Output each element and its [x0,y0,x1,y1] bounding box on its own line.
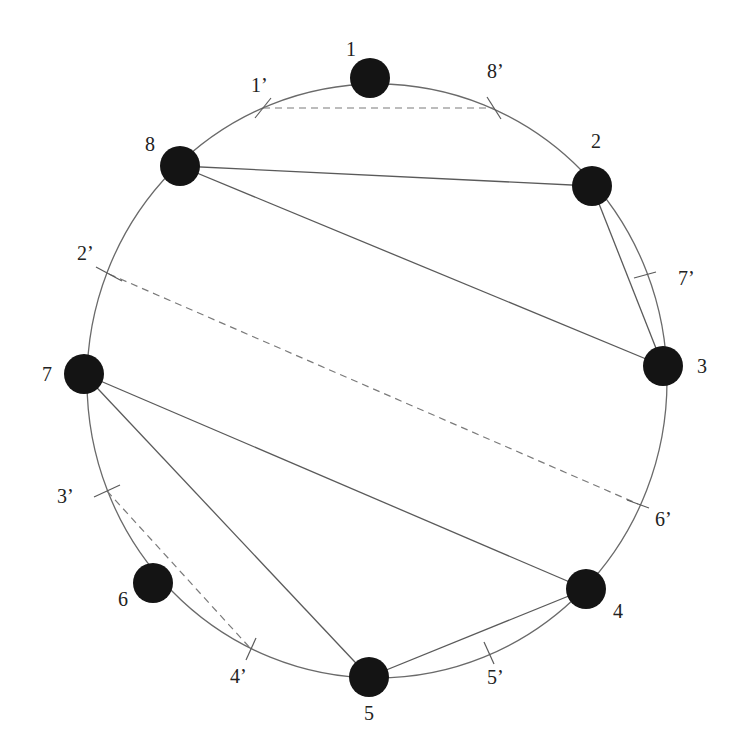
node-2 [572,166,612,206]
node-3 [643,346,683,386]
tick-8p [487,97,501,119]
cut-label-3p: 3’ [57,485,74,507]
node-label-2: 2 [591,130,601,152]
node-label-7: 7 [42,363,52,385]
nodes [64,58,683,697]
cut-label-2p: 2’ [77,242,94,264]
node-7 [64,354,104,394]
tick-7p [634,272,656,278]
node-4 [566,569,606,609]
dashed-chord-3p-4p [107,491,251,649]
circular-graph-diagram: 1’8’7’6’5’4’3’2’12345678 [0,0,745,756]
edge-7-4 [84,374,586,589]
cut-label-4p: 4’ [230,665,247,687]
edge-7-5 [84,374,369,677]
dashed-chord-2p-6p [109,274,638,504]
dashed-chords [107,108,638,649]
cut-label-8p: 8’ [487,60,504,82]
node-label-8: 8 [145,133,155,155]
node-8 [160,146,200,186]
cut-label-1p: 1’ [251,74,268,96]
node-label-3: 3 [697,355,707,377]
node-label-6: 6 [118,588,128,610]
cut-label-5p: 5’ [487,666,504,688]
node-5 [349,657,389,697]
node-label-5: 5 [364,702,374,724]
tick-6p [627,500,649,508]
edge-8-2 [180,166,592,186]
labels: 1’8’7’6’5’4’3’2’12345678 [42,38,707,724]
node-label-4: 4 [613,600,623,622]
cut-label-6p: 6’ [655,508,672,530]
tick-3p [94,485,120,497]
tick-4p [246,638,256,660]
cut-label-7p: 7’ [678,267,695,289]
node-6 [133,563,173,603]
node-1 [350,58,390,98]
edge-2-3 [592,186,663,366]
edge-5-4 [369,589,586,677]
node-label-1: 1 [346,38,356,60]
